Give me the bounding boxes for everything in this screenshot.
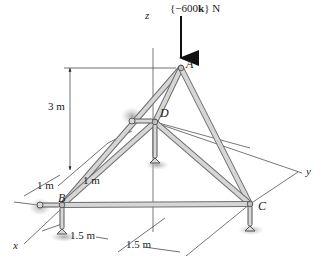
point-label-a: A <box>186 58 193 70</box>
dimension-label-b-offset: 1 m <box>37 180 54 191</box>
space-truss-diagram <box>0 0 328 273</box>
axis-label-x: x <box>13 240 18 251</box>
dimension-label-bc-half-1: 1.5 m <box>70 230 95 241</box>
joint-A <box>178 65 184 71</box>
point-label-d: D <box>160 107 169 119</box>
member-AC <box>181 68 250 204</box>
dimension-label-d-offset: 1 m <box>83 175 100 186</box>
point-label-c: C <box>258 200 266 212</box>
member-BD <box>62 122 155 205</box>
dimension-label-height: 3 m <box>48 101 65 112</box>
point-label-b: B <box>58 192 65 204</box>
load-label: {−600k} N <box>170 3 220 14</box>
axis-label-z: z <box>145 10 149 21</box>
joint-C <box>247 201 253 207</box>
member-AB <box>62 68 181 205</box>
axis-label-y: y <box>306 166 311 177</box>
member-BC <box>62 204 250 205</box>
member-CD <box>155 122 250 204</box>
coordinate-axes <box>24 48 302 256</box>
dimension-label-bc-half-2: 1.5 m <box>126 239 151 250</box>
joint-D <box>152 119 158 125</box>
